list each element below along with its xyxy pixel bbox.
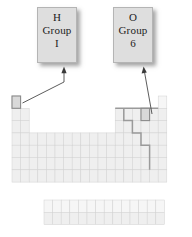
callout-hydrogen-symbol: H — [38, 11, 76, 24]
callout-oxygen-symbol: O — [114, 11, 152, 24]
callout-hydrogen: H Group I — [37, 7, 77, 63]
callout-oxygen-group-value: 6 — [114, 37, 152, 50]
callout-arrows — [0, 0, 192, 237]
arrow-head-oxygen — [142, 67, 147, 74]
arrow-head-hydrogen — [61, 67, 66, 74]
callout-oxygen: O Group 6 — [113, 7, 153, 63]
arrow-line-oxygen — [145, 72, 153, 114]
callout-hydrogen-group-value: I — [38, 37, 76, 50]
callout-oxygen-group-label: Group — [114, 24, 152, 37]
figure-canvas: H Group I O Group 6 — [0, 0, 192, 237]
callout-hydrogen-group-label: Group — [38, 24, 76, 37]
arrow-line-hydrogen — [23, 72, 65, 103]
